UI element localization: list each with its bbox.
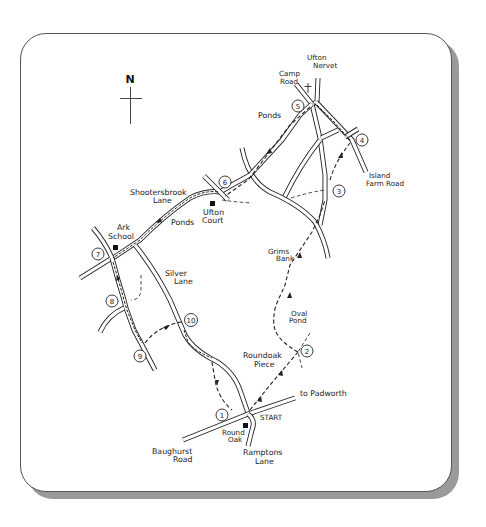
waypoint-9: 9 xyxy=(134,350,146,362)
svg-text:7: 7 xyxy=(96,251,100,259)
church-cross-icon xyxy=(305,83,312,93)
label-ark-school-1: Ark xyxy=(117,223,131,232)
label-roundoak-piece-1: Roundoak xyxy=(243,351,282,360)
label-camp-road-2: Road xyxy=(280,77,298,86)
label-grims-bank-2: Bank xyxy=(276,254,295,263)
label-silver-lane-2: Lane xyxy=(174,277,193,286)
label-round-oak-2: Oak xyxy=(228,435,243,444)
label-ramptons-lane-2: Lane xyxy=(255,457,274,466)
svg-text:1: 1 xyxy=(220,412,224,420)
label-baughurst-road-2: Road xyxy=(173,455,193,464)
svg-text:9: 9 xyxy=(138,353,142,361)
label-oval-pond-2: Pond xyxy=(289,316,307,325)
waypoint-8: 8 xyxy=(106,295,118,307)
waypoint-6: 6 xyxy=(219,176,231,188)
label-ponds-west: Ponds xyxy=(171,218,194,227)
label-ramptons-lane-1: Ramptons xyxy=(243,448,282,457)
label-ufton-nervet-2: Nervet xyxy=(313,61,337,70)
route-map: N xyxy=(0,0,486,527)
waypoint-7: 7 xyxy=(92,248,104,260)
waypoint-10: 10 xyxy=(185,314,198,327)
waypoint-2: 2 xyxy=(301,345,313,357)
ufton-court-building-icon xyxy=(210,201,215,206)
svg-text:3: 3 xyxy=(337,188,341,196)
north-label: N xyxy=(125,73,134,86)
label-start: START xyxy=(260,413,283,422)
label-island-farm-road-2: Farm Road xyxy=(366,179,404,188)
north-compass-icon: N xyxy=(120,73,142,124)
label-ark-school-2: School xyxy=(108,232,134,241)
ark-school-building-icon xyxy=(113,245,118,250)
label-shootersbrook-2: Lane xyxy=(153,196,172,205)
waypoint-5: 5 xyxy=(292,100,304,112)
svg-text:8: 8 xyxy=(110,298,114,306)
svg-text:5: 5 xyxy=(296,103,300,111)
waypoint-4: 4 xyxy=(356,134,368,146)
label-ufton-court-2: Court xyxy=(202,216,223,225)
svg-text:4: 4 xyxy=(360,137,365,145)
waypoint-3: 3 xyxy=(333,185,345,197)
label-roundoak-piece-2: Piece xyxy=(254,360,275,369)
svg-text:2: 2 xyxy=(305,348,309,356)
label-to-padworth: to Padworth xyxy=(300,389,347,398)
label-ponds-north: Ponds xyxy=(258,111,281,120)
waypoint-1: 1 xyxy=(216,409,228,421)
svg-text:6: 6 xyxy=(223,179,228,187)
svg-text:10: 10 xyxy=(187,317,196,325)
